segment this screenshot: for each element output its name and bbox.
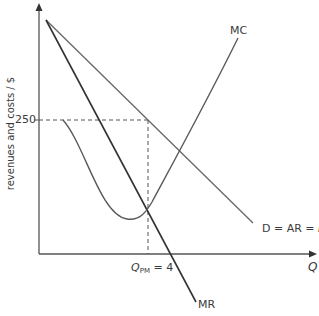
demand-label-prefix: D = AR = [262,222,318,235]
x-axis-arrow-icon [309,251,317,258]
profit-maximisation-diagram: revenues and costs / $ 250 MC MR D = AR … [0,0,319,316]
x-axis [39,251,317,258]
x-tick-value: = 4 [150,261,173,274]
mr-label: MR [198,299,215,310]
x-axis-label: Q [308,261,317,273]
demand-curve [46,20,253,223]
marginal-cost-curve [63,38,238,219]
y-axis-arrow-icon [36,3,43,11]
x-tick-qpm: QPM = 4 [131,262,173,275]
demand-label: D = AR = P [262,223,319,234]
y-axis-label: revenues and costs / $ [5,69,16,199]
x-tick-symbol: Q [131,261,140,274]
demand-label-price: P [318,222,319,235]
mc-label: MC [230,25,247,36]
x-tick-subscript: PM [140,267,150,275]
y-tick-250: 250 [15,114,36,125]
y-axis [36,3,43,254]
